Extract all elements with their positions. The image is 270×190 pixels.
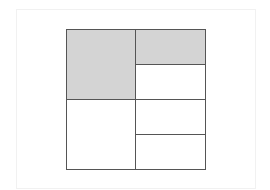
- cell-right-row-3: [135, 99, 206, 135]
- cell-bottom-left: [66, 99, 136, 170]
- cell-right-row-2: [135, 64, 206, 100]
- cell-top-left-shaded: [66, 29, 136, 100]
- fraction-grid: [66, 29, 206, 170]
- cell-right-row-1-shaded: [135, 29, 206, 65]
- cell-right-row-4: [135, 134, 206, 170]
